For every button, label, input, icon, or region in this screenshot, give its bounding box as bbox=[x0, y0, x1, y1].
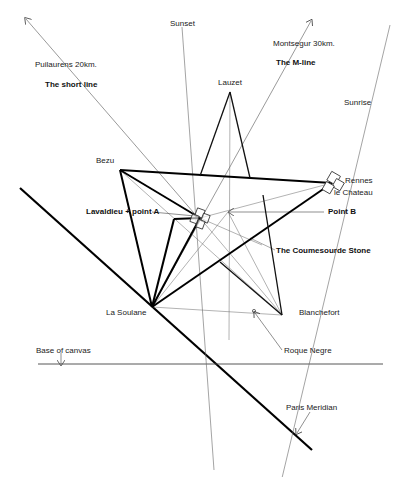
label-bezu: Bezu bbox=[96, 157, 114, 165]
label-point-b: Point B bbox=[328, 208, 356, 216]
label-m-line: The M-line bbox=[276, 59, 316, 67]
short-line-arrow bbox=[26, 19, 200, 220]
label-puilaurens: Puilaurens 20km. bbox=[35, 61, 97, 69]
label-blanchefort: Blanchefort bbox=[299, 309, 339, 317]
label-lavaldieu: Lavaldieu + point A bbox=[86, 208, 159, 216]
label-coumesourde: The Coumesourde Stone bbox=[276, 247, 371, 255]
label-montsegur: Montsegur 30km. bbox=[273, 40, 335, 48]
label-paris-meridian: Paris Meridian bbox=[286, 404, 337, 412]
label-base-of-canvas: Base of canvas bbox=[36, 347, 91, 355]
label-la-soulane: La Soulane bbox=[106, 309, 146, 317]
label-lauzet: Lauzet bbox=[218, 79, 242, 87]
label-short-line: The short line bbox=[45, 81, 97, 89]
paris-meridian-arrow bbox=[297, 412, 310, 433]
label-rennes-2: le Chateau bbox=[334, 189, 373, 197]
sunset-line bbox=[182, 27, 214, 470]
label-sunset: Sunset bbox=[170, 20, 195, 28]
label-rennes-1: Rennes bbox=[345, 177, 373, 185]
label-roque-negre: Roque Negre bbox=[284, 347, 332, 355]
roque-negre-marker bbox=[252, 309, 255, 312]
diagram-canvas bbox=[0, 0, 406, 477]
roque-negre-arrow bbox=[255, 313, 282, 350]
label-sunrise: Sunrise bbox=[344, 99, 371, 107]
